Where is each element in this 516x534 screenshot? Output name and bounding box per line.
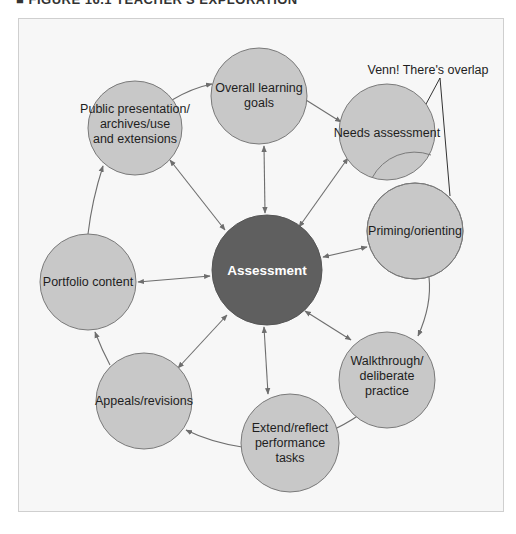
arrow-priming-to-walkthrough <box>418 277 430 336</box>
node-label: deliberate <box>360 369 415 383</box>
svg-text:performance: performance <box>255 436 325 450</box>
svg-text:Needs assessment: Needs assessment <box>334 126 441 140</box>
node-appeals: Appeals/revisions <box>95 353 193 449</box>
svg-text:Walkthrough/: Walkthrough/ <box>350 354 424 368</box>
node-overall: Overall learning goals <box>211 48 307 144</box>
arrow-public-to-overall <box>172 84 212 100</box>
node-label: Priming/orienting <box>368 224 462 238</box>
arrow-overall-to-needs <box>306 100 341 122</box>
node-walkthrough: Walkthrough/ deliberate practice <box>339 332 435 428</box>
spoke-appeals <box>178 315 227 368</box>
node-label: archives/use <box>100 117 170 131</box>
svg-text:practice: practice <box>365 384 409 398</box>
svg-text:tasks: tasks <box>275 451 304 465</box>
node-needs: Needs assessment <box>334 84 441 180</box>
center-label: Assessment <box>227 263 307 278</box>
node-label: and extensions <box>93 132 177 146</box>
svg-text:Priming/orienting: Priming/orienting <box>368 224 462 238</box>
node-label: Extend/reflect <box>252 421 329 435</box>
svg-text:archives/use: archives/use <box>100 117 170 131</box>
svg-text:Assessment: Assessment <box>227 263 307 278</box>
node-public: Public presentation/ archives/use and ex… <box>80 81 190 175</box>
spoke-portfolio <box>138 276 210 282</box>
node-label: Walkthrough/ <box>350 354 424 368</box>
spoke-needs <box>299 158 348 227</box>
node-assessment-center: Assessment <box>212 215 322 325</box>
node-extend: Extend/reflect performance tasks <box>241 394 339 492</box>
svg-text:and extensions: and extensions <box>93 132 177 146</box>
svg-text:deliberate: deliberate <box>360 369 415 383</box>
spoke-priming <box>323 247 367 257</box>
node-label: Public presentation/ <box>80 102 190 116</box>
cycle-diagram: Overall learning goals Public presentati… <box>0 0 516 534</box>
node-label: tasks <box>275 451 304 465</box>
svg-text:goals: goals <box>244 96 274 110</box>
arrow-appeals-to-portfolio <box>95 332 110 365</box>
callout-label: Venn! There's overlap <box>368 63 489 77</box>
svg-text:Overall learning: Overall learning <box>215 81 303 95</box>
node-label: Appeals/revisions <box>95 394 193 408</box>
svg-text:Appeals/revisions: Appeals/revisions <box>95 394 193 408</box>
svg-text:Portfolio content: Portfolio content <box>43 275 134 289</box>
svg-text:Public presentation/: Public presentation/ <box>80 102 190 116</box>
spoke-extend <box>264 327 268 394</box>
node-portfolio: Portfolio content <box>40 234 136 330</box>
node-label: goals <box>244 96 274 110</box>
node-label: Overall learning <box>215 81 303 95</box>
spoke-walkthrough <box>305 311 351 340</box>
spoke-overall <box>264 146 265 213</box>
node-label: performance <box>255 436 325 450</box>
spoke-public <box>170 160 225 230</box>
node-label: practice <box>365 384 409 398</box>
svg-text:Extend/reflect: Extend/reflect <box>252 421 329 435</box>
arrow-extend-to-appeals <box>186 430 242 447</box>
node-label: Portfolio content <box>43 275 134 289</box>
node-label: Needs assessment <box>334 126 441 140</box>
arrow-portfolio-to-public <box>88 166 103 234</box>
